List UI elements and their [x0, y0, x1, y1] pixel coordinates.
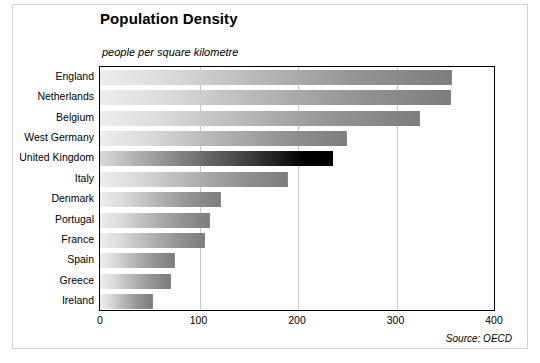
bar-row	[100, 190, 494, 210]
bar-row	[100, 108, 494, 128]
chart-subtitle: people per square kilometre	[102, 46, 238, 58]
bar-row	[100, 67, 494, 87]
bar-row	[100, 251, 494, 271]
category-label-greece: Greece	[0, 274, 94, 286]
bar-belgium[interactable]	[100, 111, 420, 126]
bars-layer	[100, 67, 494, 310]
category-label-united-kingdom: United Kingdom	[0, 151, 94, 163]
bar-row	[100, 230, 494, 250]
category-label-ireland: Ireland	[0, 294, 94, 306]
bar-spain[interactable]	[100, 253, 175, 268]
category-label-west-germany: West Germany	[0, 131, 94, 143]
chart-figure: Population Density people per square kil…	[0, 0, 540, 363]
page-title: Population Density	[100, 10, 238, 27]
bar-row	[100, 149, 494, 169]
x-tick-label-300: 300	[387, 314, 405, 326]
x-tick-label-200: 200	[288, 314, 306, 326]
bar-row	[100, 271, 494, 291]
bar-united-kingdom[interactable]	[100, 151, 333, 166]
category-label-portugal: Portugal	[0, 213, 94, 225]
bar-italy[interactable]	[100, 172, 288, 187]
category-label-england: England	[0, 70, 94, 82]
bar-ireland[interactable]	[100, 294, 153, 309]
source-note: Source: OECD	[446, 333, 512, 344]
category-label-spain: Spain	[0, 253, 94, 265]
bar-france[interactable]	[100, 233, 205, 248]
bar-denmark[interactable]	[100, 192, 221, 207]
category-label-italy: Italy	[0, 172, 94, 184]
bar-england[interactable]	[100, 70, 452, 85]
category-label-denmark: Denmark	[0, 192, 94, 204]
category-label-france: France	[0, 233, 94, 245]
plot-area	[99, 66, 495, 311]
y-axis-category-labels: EnglandNetherlandsBelgiumWest GermanyUni…	[0, 66, 94, 311]
category-label-belgium: Belgium	[0, 111, 94, 123]
x-tick-label-0: 0	[97, 314, 103, 326]
x-tick-label-400: 400	[485, 314, 503, 326]
x-axis: 0100200300400	[99, 311, 495, 335]
bar-greece[interactable]	[100, 274, 171, 289]
bar-row	[100, 169, 494, 189]
bar-row	[100, 128, 494, 148]
x-tick-label-100: 100	[190, 314, 208, 326]
bar-portugal[interactable]	[100, 213, 210, 228]
bar-row	[100, 210, 494, 230]
bar-row	[100, 292, 494, 312]
bar-row	[100, 87, 494, 107]
category-label-netherlands: Netherlands	[0, 90, 94, 102]
bar-netherlands[interactable]	[100, 90, 451, 105]
bar-west-germany[interactable]	[100, 131, 347, 146]
